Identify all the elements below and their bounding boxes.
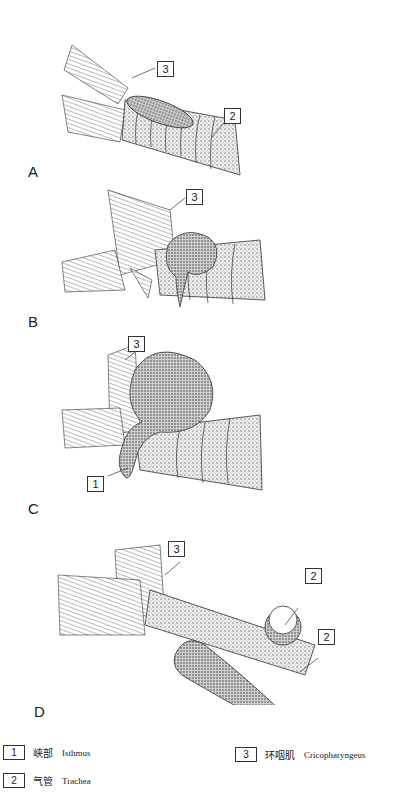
panel-a: 3 2 A: [0, 0, 395, 190]
callout-trachea: 2: [224, 108, 241, 124]
legend-chinese: 环咽肌: [265, 747, 295, 762]
legend-english: Isthmus: [62, 748, 91, 758]
callout-cricopharyngeus: 3: [186, 189, 203, 205]
callout-trachea-cross-section: 2: [305, 568, 322, 584]
callout-trachea: 2: [318, 629, 335, 645]
legend-item-trachea: 2 气管 Trachea: [3, 773, 91, 788]
trachea-illustration-a: [0, 0, 395, 190]
legend: 1 峡部 Isthmus 2 气管 Trachea 3 环咽肌 Cricopha…: [0, 740, 395, 796]
legend-chinese: 峡部: [33, 745, 53, 760]
panel-d: 3 2 2 D: [0, 530, 395, 705]
legend-item-cricopharyngeus: 3 环咽肌 Cricopharyngeus: [235, 747, 365, 762]
legend-english: Cricopharyngeus: [304, 750, 365, 760]
trachea-illustration-c: [0, 330, 395, 510]
legend-number: 1: [3, 745, 25, 760]
callout-isthmus: 1: [87, 476, 104, 492]
panel-c: 3 1 C: [0, 330, 395, 510]
callout-cricopharyngeus: 3: [157, 61, 174, 77]
panel-letter-c: C: [28, 500, 39, 517]
callout-cricopharyngeus: 3: [128, 336, 145, 352]
legend-chinese: 气管: [33, 773, 53, 788]
panel-b: 3 B: [0, 180, 395, 350]
panel-letter-d: D: [34, 703, 45, 720]
panel-letter-b: B: [28, 313, 38, 330]
callout-cricopharyngeus: 3: [168, 541, 185, 557]
trachea-illustration-d: [0, 530, 395, 705]
panel-letter-a: A: [28, 163, 38, 180]
legend-number: 2: [3, 773, 25, 788]
trachea-illustration-b: [0, 180, 395, 350]
legend-english: Trachea: [62, 776, 91, 786]
legend-number: 3: [235, 747, 257, 762]
legend-item-isthmus: 1 峡部 Isthmus: [3, 745, 91, 760]
